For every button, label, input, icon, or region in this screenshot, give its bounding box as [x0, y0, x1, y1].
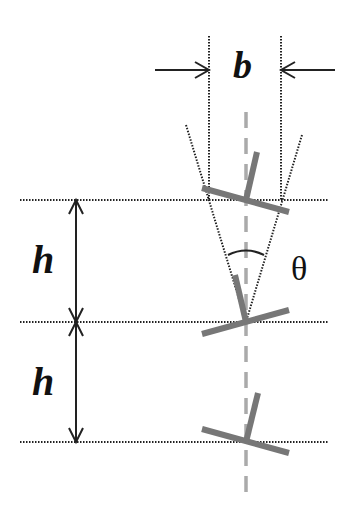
height-label-top: h: [32, 240, 54, 280]
h-arrow-top-icon: [69, 200, 83, 322]
angle-label-theta: θ: [291, 252, 307, 286]
h-arrow-bottom-icon: [69, 322, 83, 442]
leg-symbol-top: [202, 152, 289, 212]
b-left-arrow-icon: [155, 62, 209, 78]
diagram-canvas: b h h θ: [0, 0, 355, 512]
width-label-b: b: [233, 46, 252, 84]
height-label-bottom: h: [32, 362, 54, 402]
b-right-arrow-icon: [281, 62, 335, 78]
